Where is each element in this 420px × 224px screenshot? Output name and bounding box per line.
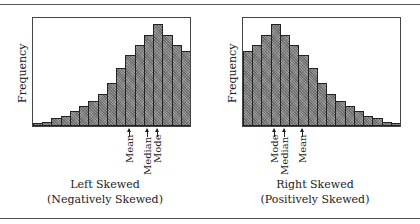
marker-label: Mean — [297, 135, 308, 164]
left-histogram — [32, 17, 191, 127]
histogram-bar — [181, 51, 191, 126]
arrow-up-icon — [284, 129, 285, 137]
marker-label: Median — [279, 136, 290, 174]
y-axis-label: Frequency — [226, 44, 239, 104]
y-axis-label: Frequency — [16, 44, 29, 104]
right-histogram — [242, 17, 401, 127]
chart-title: Left Skewed — [0, 178, 210, 192]
marker-label: Mode — [152, 135, 163, 164]
chart-title: Right Skewed — [210, 178, 420, 192]
arrow-up-icon — [147, 129, 148, 137]
chart-subtitle: (Negatively Skewed) — [0, 193, 210, 207]
left-skewed-panel: Frequency MeanMedianMode Left Skewed (Ne… — [0, 0, 210, 224]
right-skewed-panel: Frequency ModeMedianMean Right Skewed (P… — [210, 0, 420, 224]
chart-subtitle: (Positively Skewed) — [210, 193, 420, 207]
histogram-bar — [391, 123, 401, 126]
marker-label: Mean — [124, 135, 135, 164]
